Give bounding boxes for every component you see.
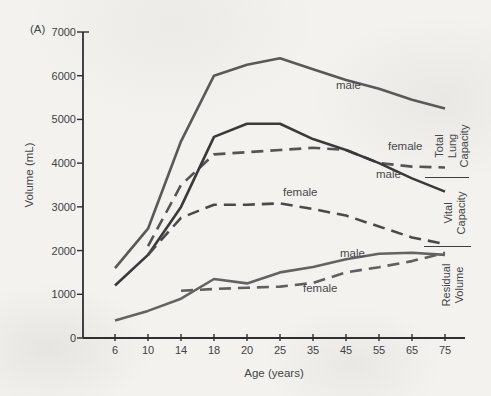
curve-label-residual-volume-male: male [340, 248, 365, 260]
curve-label-residual-volume-female: female [303, 283, 338, 295]
x-tick-label: 20 [233, 345, 261, 356]
y-tick-label: 0 [42, 333, 76, 344]
x-tick-label: 65 [398, 345, 426, 356]
x-tick-label: 25 [266, 345, 294, 356]
group-label-vital-capacity: Vital Capacity [442, 192, 467, 235]
curve-label-vital-capacity-female: female [283, 187, 318, 199]
curve-label-vital-capacity-male: male [376, 169, 401, 181]
group-separator-line [425, 177, 469, 178]
x-tick-label: 10 [134, 345, 162, 356]
y-tick-label: 3000 [42, 202, 76, 213]
x-tick-label: 6 [101, 345, 129, 356]
group-label-residual-volume: Residual Volume [440, 264, 465, 307]
group-label-total-lung-capacity: Total Lung Capacity [433, 125, 471, 168]
y-tick-label: 1000 [42, 289, 76, 300]
y-tick-label: 2000 [42, 246, 76, 257]
y-tick-label: 6000 [42, 71, 76, 82]
group-separator-line [424, 246, 471, 247]
x-tick-label: 75 [431, 345, 459, 356]
x-tick-label: 45 [332, 345, 360, 356]
y-tick-label: 5000 [42, 114, 76, 125]
x-tick-label: 18 [200, 345, 228, 356]
x-tick-label: 14 [167, 345, 195, 356]
scanned-textbook-figure: (A) Volume (mL) Age (years) 010002000300… [0, 0, 491, 396]
curve-label-total-lung-capacity-male: male [336, 80, 361, 92]
x-tick-label: 35 [299, 345, 327, 356]
y-tick-label: 7000 [42, 27, 76, 38]
curve-label-total-lung-capacity-female: female [388, 141, 423, 153]
x-tick-label: 55 [365, 345, 393, 356]
y-tick-label: 4000 [42, 158, 76, 169]
series-vital-capacity-female [148, 203, 445, 255]
